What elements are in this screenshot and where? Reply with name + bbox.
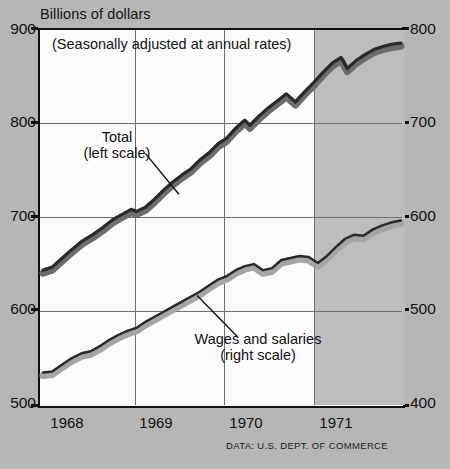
- y-axis-right-tick-500: 500: [410, 300, 436, 318]
- annotation-wages-line2: (right scale): [178, 347, 338, 363]
- annotation-wages: Wages and salaries (right scale): [178, 331, 338, 363]
- y-axis-right-tick-700: 700: [410, 113, 436, 131]
- y-axis-left-tick-500: 500: [10, 394, 36, 412]
- chart-root: Billions of dollars 900 800 700 600 500 …: [0, 0, 450, 469]
- chart-subtitle: (Seasonally adjusted at annual rates): [52, 36, 291, 52]
- annotation-total-line2: (left scale): [62, 145, 172, 161]
- units-label: Billions of dollars: [40, 6, 151, 22]
- tickmark-left-500: [31, 404, 38, 407]
- x-axis-tick-1968: 1968: [27, 414, 107, 431]
- source-note: DATA: U.S. DEPT. OF COMMERCE: [226, 440, 388, 451]
- tickmark-left-600: [31, 308, 38, 311]
- x-axis-tick-1969: 1969: [116, 414, 196, 431]
- tickmark-left-900: [31, 27, 38, 30]
- y-axis-right-tick-800: 800: [410, 20, 436, 38]
- annotation-total: Total (left scale): [62, 129, 172, 161]
- annotation-wages-line1: Wages and salaries: [178, 331, 338, 347]
- x-axis-tick-1970: 1970: [206, 414, 286, 431]
- x-axis-tick-1971: 1971: [296, 414, 376, 431]
- tickmark-left-800: [31, 121, 38, 124]
- annotation-total-line1: Total: [62, 129, 172, 145]
- y-axis-right-tick-600: 600: [410, 207, 436, 225]
- tickmark-left-700: [31, 215, 38, 218]
- y-axis-right-tick-400: 400: [410, 394, 436, 412]
